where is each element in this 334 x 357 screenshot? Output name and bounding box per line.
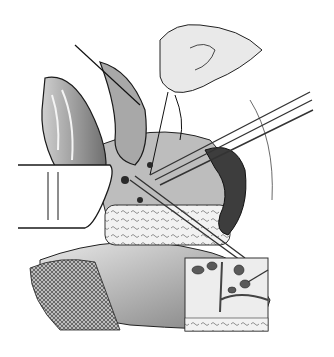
- retractor-blade: [18, 165, 112, 228]
- surgical-illustration: [0, 0, 334, 357]
- illustration-svg: [0, 0, 334, 357]
- inset-detail-box: [185, 258, 268, 331]
- gloved-hand: [160, 25, 262, 93]
